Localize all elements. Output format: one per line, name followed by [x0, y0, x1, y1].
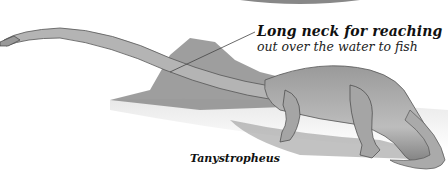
callout-line-2: out over the water to fish	[257, 39, 442, 54]
species-caption: Tanystropheus	[190, 152, 280, 165]
top-rock	[240, 0, 360, 4]
callout-line-1: Long neck for reaching	[257, 24, 442, 39]
callout-label: Long neck for reaching out over the wate…	[257, 24, 442, 54]
